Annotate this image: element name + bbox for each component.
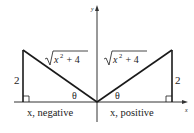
svg-text:+ 4: + 4: [123, 54, 139, 65]
svg-text:x: x: [112, 54, 118, 65]
x-axis-label: x: [184, 107, 188, 113]
right-vertical-leg-label: 2: [175, 74, 181, 86]
left-base-label: x, negative: [27, 107, 73, 118]
left-triangle: 2 x 2 + 4 θ x, negative: [14, 50, 97, 118]
svg-text:+ 4: + 4: [64, 54, 80, 65]
x-axis-arrow-icon: [182, 100, 188, 104]
right-angle-marker-icon: [166, 96, 172, 102]
right-triangle: 2 x 2 + 4 θ x, positive: [97, 50, 181, 118]
diagram-canvas: y x 2 x 2 + 4 θ x, negative 2 x 2: [0, 0, 194, 133]
left-angle-theta-label: θ: [72, 90, 77, 101]
svg-text:2: 2: [119, 52, 122, 59]
left-vertical-leg-label: 2: [14, 74, 20, 86]
svg-text:x, negative: x, negative: [27, 107, 73, 118]
right-hypotenuse-label: x 2 + 4: [104, 51, 147, 65]
y-axis-label: y: [90, 6, 94, 12]
right-base-label: x, positive: [110, 107, 154, 118]
svg-text:x: x: [53, 54, 59, 65]
y-axis: y: [90, 5, 99, 122]
svg-text:2: 2: [60, 52, 63, 59]
left-hypotenuse-label: x 2 + 4: [45, 51, 88, 65]
right-angle-marker-icon: [23, 96, 29, 102]
right-angle-theta-label: θ: [115, 90, 120, 101]
y-axis-arrow-icon: [95, 5, 99, 11]
svg-text:x, positive: x, positive: [110, 107, 154, 118]
